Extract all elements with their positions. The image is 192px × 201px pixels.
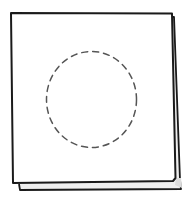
front-page (11, 13, 176, 183)
stacked-pages-sketch (0, 0, 192, 201)
